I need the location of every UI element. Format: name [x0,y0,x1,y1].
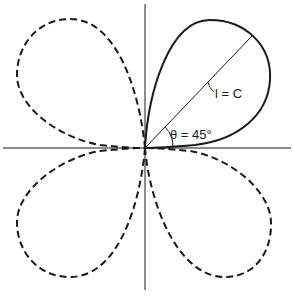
dashed-lobe-lower-left [17,148,145,277]
dashed-lobe-lower-right [145,148,271,277]
dashed-lobe-upper-left [17,19,145,148]
polar-lobe-diagram: l = C θ = 45° [0,0,294,298]
radius-label-leader [208,82,214,92]
angle-label: θ = 45° [170,127,212,142]
radius-label: l = C [215,86,242,101]
